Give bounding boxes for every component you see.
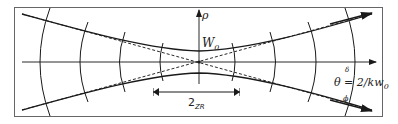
beam-envelope-upper: [22, 14, 372, 51]
angle-marker-bottom: ϕ: [343, 94, 349, 103]
beam-waist-point: [198, 61, 201, 64]
rho-label: ρ: [201, 9, 209, 22]
divergence-angle-label: θ = 2/kw0: [334, 76, 389, 91]
divergence-arrow-upper: [330, 13, 372, 24]
divergence-arrow-lower: [330, 100, 372, 111]
waist-label: W0: [202, 36, 219, 52]
gaussian-beam-diagram: ρ W0 2ZR θ = 2/kw0 δ ϕ: [0, 0, 398, 124]
rayleigh-range-label: 2ZR: [188, 96, 205, 111]
angle-marker-top: δ: [345, 66, 349, 74]
